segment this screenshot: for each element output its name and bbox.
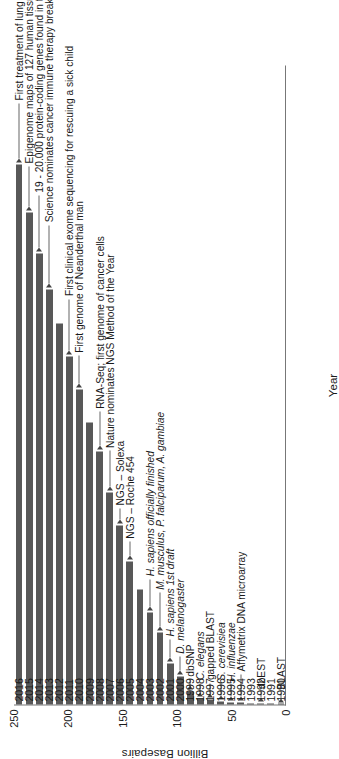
annotation-label: Affymetrix DNA microarray: [235, 551, 246, 671]
annotation-arrow-icon: [76, 383, 82, 387]
bar: [267, 703, 274, 704]
annotation-arrow-icon: [66, 350, 72, 354]
annotation-leader-line: [109, 450, 110, 485]
annotation-leader-line: [19, 103, 20, 158]
value-tick-label: 100: [171, 709, 183, 727]
annotation: First genome of Neanderthal man: [75, 64, 84, 704]
annotation: H. sapiens officially finished: [146, 64, 155, 704]
annotation-arrow-icon: [127, 555, 133, 559]
category-axis: Year 19901991199219931994199519961997199…: [287, 65, 317, 705]
annotation-leader-line: [150, 579, 151, 606]
annotation: NGS – Solexa: [115, 64, 124, 704]
bar: [86, 422, 93, 704]
value-tick-label: 200: [62, 709, 74, 727]
annotation: First clinical exome sequencing for resc…: [65, 64, 74, 704]
annotation-arrow-icon: [157, 626, 163, 630]
annotation-label: Nature nominates NGS Method of the Year: [104, 254, 115, 448]
annotation-leader-line: [99, 411, 100, 444]
annotation-leader-line: [39, 195, 40, 247]
annotation: Science nominates cancer immune therapy …: [45, 64, 54, 704]
annotation-arrow-icon: [46, 283, 52, 287]
annotation-leader-line: [79, 355, 80, 383]
value-tick-label: 50: [226, 709, 238, 721]
annotation-leader-line: [29, 166, 30, 207]
annotation-leader-line: [160, 592, 161, 626]
category-axis-title: Year: [327, 65, 339, 705]
bar: [56, 323, 63, 704]
annotation: Nature nominates NGS Method of the Year: [105, 64, 114, 704]
annotation-arrow-icon: [167, 657, 173, 661]
bar: [247, 703, 254, 704]
annotation-arrow-icon: [177, 670, 183, 674]
annotation-label: First genome of Neanderthal man: [74, 200, 85, 352]
annotation: Affymetrix DNA microarray: [236, 64, 245, 704]
annotation: Epigenome maps of 127 human tissues and …: [25, 64, 34, 704]
annotation-arrow-icon: [26, 206, 32, 210]
annotation: M. musculus, P. falciparum, A. gambiae: [156, 64, 165, 704]
plot-area: First treatment of lung cancer with CRIS…: [14, 65, 286, 705]
annotation: gapped BLAST: [206, 64, 215, 704]
annotation: NGS – Roche 454: [125, 64, 134, 704]
annotation: RNA-Seq; first genome of cancer cells: [95, 64, 104, 704]
annotation-arrow-icon: [117, 519, 123, 523]
annotation: dbEST: [256, 64, 265, 704]
annotation-arrow-icon: [97, 445, 103, 449]
annotation-label: NGS – Roche 454: [124, 455, 135, 538]
annotation: 19 - 20.000 protein-coding genes found i…: [35, 64, 44, 704]
value-axis-title: Billion Basepairs: [0, 741, 330, 759]
annotation: S. cerevisiea: [216, 64, 225, 704]
annotation-arrow-icon: [107, 486, 113, 490]
annotation-arrow-icon: [16, 158, 22, 162]
value-tick-label: 150: [117, 709, 129, 727]
value-tick-label: 250: [8, 709, 20, 727]
annotation-arrow-icon: [147, 606, 153, 610]
annotation-leader-line: [170, 639, 171, 657]
annotation: H. influenzae: [226, 64, 235, 704]
annotation: H. sapiens 1st draft: [166, 64, 175, 704]
annotation-label: Science nominates cancer immune therapy …: [44, 0, 55, 222]
annotation-leader-line: [129, 541, 130, 555]
annotation-leader-line: [180, 656, 181, 670]
annotation: BLAST: [276, 64, 285, 704]
value-axis-ticks: 050100150200250: [0, 709, 330, 735]
annotation-leader-line: [119, 508, 120, 519]
annotation: D. melanogaster: [176, 64, 185, 704]
annotation-label: D. melanogaster: [175, 579, 186, 654]
category-tick-label: 2016: [13, 678, 25, 701]
annotation: dbSNP: [186, 64, 195, 704]
value-tick-label: 0: [280, 709, 292, 715]
annotation-arrow-icon: [36, 247, 42, 251]
annotation: First treatment of lung cancer with CRIS…: [15, 64, 24, 704]
annotation-leader-line: [49, 225, 50, 284]
annotation-leader-line: [69, 299, 70, 350]
annotation: C. elegans: [196, 64, 205, 704]
